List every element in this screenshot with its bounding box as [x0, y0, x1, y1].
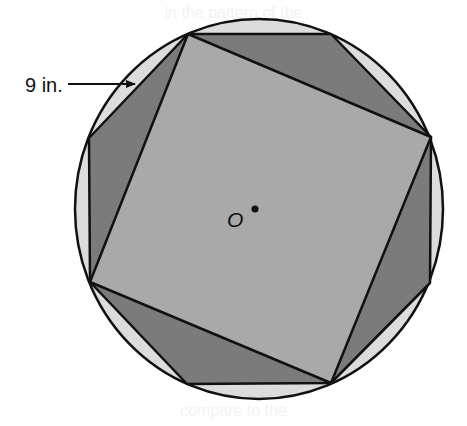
center-point: [252, 206, 259, 213]
center-label: O: [227, 208, 243, 231]
measurement-label: 9 in.: [25, 74, 63, 96]
inscribed-shapes-diagram: O 9 in.: [0, 0, 467, 426]
